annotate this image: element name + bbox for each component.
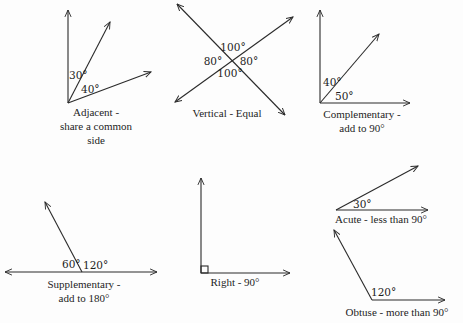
angle-label-top: 100° [220, 41, 245, 53]
right-angle-marker-icon [201, 266, 208, 273]
ray-oblique [336, 166, 418, 210]
angle-label: 40° [81, 83, 100, 95]
caption-line: add to 90° [339, 122, 384, 134]
angle-label: 50° [335, 90, 354, 102]
adjacent-angles-figure: 30° 40° Adjacent - share a common side [60, 10, 151, 146]
supplementary-angles-figure: 60° 120° Supplementary - add to 180° [5, 202, 157, 304]
caption-line: share a common [60, 120, 133, 132]
caption-line: side [87, 134, 105, 146]
obtuse-angle-figure: 120° Obtuse - more than 90° [334, 230, 448, 318]
angle-label: 120° [83, 259, 108, 271]
right-angle-figure: Right - 90° [201, 178, 290, 288]
caption-line: Supplementary - [47, 278, 120, 290]
angle-label: 30° [69, 69, 88, 81]
acute-angle-figure: 30° Acute - less than 90° [335, 166, 428, 225]
caption-line: Right - 90° [210, 276, 259, 288]
angle-label: 60° [62, 258, 81, 270]
line-b [175, 17, 293, 102]
angle-label-right: 80° [240, 55, 259, 67]
ray-oblique [334, 230, 372, 300]
line-a [177, 4, 285, 115]
angle-label: 40° [323, 76, 342, 88]
caption-line: Adjacent - [73, 106, 119, 118]
angle-label-bottom: 100° [217, 67, 242, 79]
caption-line: Acute - less than 90° [335, 213, 427, 225]
caption-line: Vertical - Equal [192, 107, 261, 119]
caption-line: Obtuse - more than 90° [346, 306, 449, 318]
angle-label-left: 80° [204, 55, 223, 67]
vertical-angles-figure: 100° 80° 80° 100° Vertical - Equal [175, 4, 293, 119]
angle-relationships-diagram: 30° 40° Adjacent - share a common side 1… [0, 0, 463, 323]
angle-label: 30° [353, 198, 372, 210]
angle-label: 120° [371, 286, 396, 298]
complementary-angles-figure: 40° 50° Complementary - add to 90° [320, 10, 410, 134]
caption-line: Complementary - [323, 108, 401, 120]
caption-line: add to 180° [59, 292, 110, 304]
